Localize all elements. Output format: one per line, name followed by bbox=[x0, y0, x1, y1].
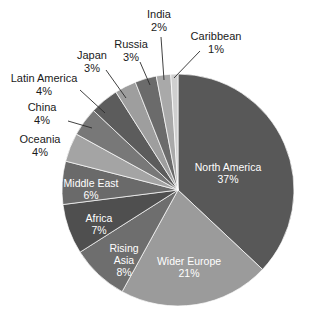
slice-value-africa: 7% bbox=[91, 224, 106, 236]
slice-value-rising-asia: 8% bbox=[116, 266, 131, 278]
slice-value-oceania: 4% bbox=[32, 146, 48, 158]
slice-label-rising-asia: Rising bbox=[109, 242, 138, 254]
leader-line-caribbean bbox=[174, 51, 200, 78]
slice-value-north-america: 37% bbox=[217, 173, 238, 185]
slice-value-india: 2% bbox=[151, 21, 167, 33]
slice-value-caribbean: 1% bbox=[208, 43, 224, 55]
slice-label-latin-america: Latin America bbox=[11, 72, 79, 84]
pie-chart-svg: North America37%Wider Europe21%RisingAsi… bbox=[0, 0, 309, 329]
slice-value-middle-east: 6% bbox=[83, 189, 98, 201]
slice-value-latin-america: 4% bbox=[36, 85, 52, 97]
leader-line-india bbox=[161, 37, 164, 80]
slice-value-china: 4% bbox=[34, 114, 50, 126]
slice-label-india: India bbox=[147, 8, 172, 20]
slice-label-caribbean: Caribbean bbox=[191, 30, 242, 42]
slice-value-wider-europe: 21% bbox=[178, 267, 199, 279]
slice-label-russia: Russia bbox=[114, 38, 149, 50]
slice-label-africa: Africa bbox=[86, 212, 113, 224]
slice-label-rising-asia-line2: Asia bbox=[114, 254, 135, 266]
slice-value-russia: 3% bbox=[123, 51, 139, 63]
slice-label-north-america: North America bbox=[195, 161, 262, 173]
pie-chart-figure: North America37%Wider Europe21%RisingAsi… bbox=[0, 0, 309, 329]
slice-label-middle-east: Middle East bbox=[64, 177, 119, 189]
slice-label-oceania: Oceania bbox=[20, 133, 62, 145]
slice-value-japan: 3% bbox=[84, 62, 100, 74]
slice-label-china: China bbox=[28, 101, 58, 113]
slice-label-japan: Japan bbox=[77, 49, 107, 61]
leader-line-latin-america bbox=[80, 90, 105, 113]
slice-label-wider-europe: Wider Europe bbox=[157, 255, 221, 267]
